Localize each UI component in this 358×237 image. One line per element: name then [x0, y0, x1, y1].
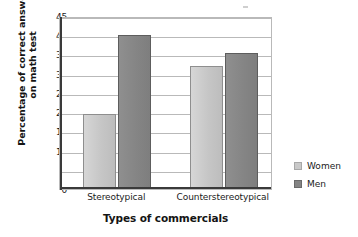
legend-swatch-women-icon [294, 162, 302, 170]
bar-men-1 [225, 53, 258, 189]
y-axis-title: Percentage of correct answers on math te… [11, 0, 45, 155]
y-axis-title-line-2: on math test [28, 31, 39, 99]
bar-chart: Percentage of correct answers on math te… [0, 0, 358, 237]
scan-artifact [243, 6, 248, 8]
bar-women-1 [190, 66, 223, 189]
legend-label-men: Men [307, 179, 326, 189]
y-axis-line [60, 17, 62, 190]
plot-area [59, 17, 272, 190]
legend: Women Men [294, 158, 341, 194]
bar-men-0 [118, 35, 151, 189]
legend-item-men: Men [294, 176, 341, 191]
gridline [60, 18, 271, 19]
legend-swatch-men-icon [294, 180, 302, 188]
x-axis-title: Types of commercials [59, 212, 272, 224]
legend-label-women: Women [307, 161, 341, 171]
legend-item-women: Women [294, 158, 341, 173]
x-axis-tick-label: Counterstereotypical [153, 192, 293, 202]
gridline [60, 37, 271, 38]
bar-women-0 [83, 114, 116, 189]
x-axis-line [60, 187, 271, 189]
